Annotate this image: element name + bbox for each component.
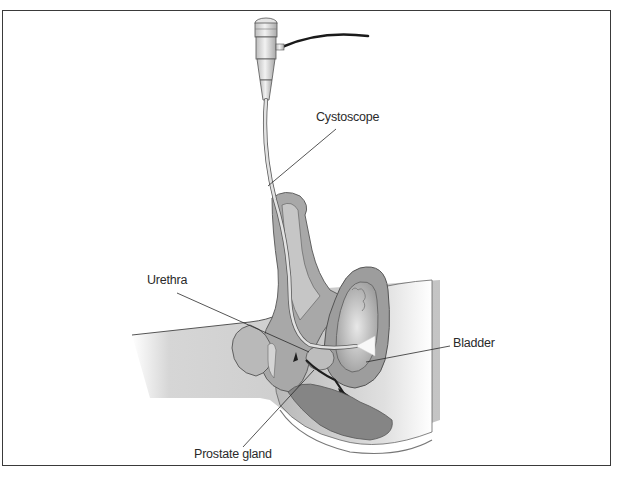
light-cable (282, 34, 368, 47)
label-cystoscope: Cystoscope (316, 110, 379, 124)
label-bladder: Bladder (453, 336, 495, 350)
leader-cystoscope (268, 129, 336, 186)
bladder (324, 267, 389, 388)
label-prostate: Prostate gland (194, 447, 272, 461)
label-urethra: Urethra (147, 273, 187, 287)
cystoscopy-illustration (0, 0, 628, 477)
scope-body (256, 37, 276, 59)
